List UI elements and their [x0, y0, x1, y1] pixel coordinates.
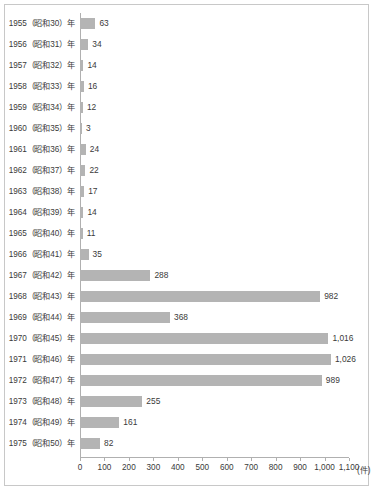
bar-row: 1958（昭和33）年16	[5, 76, 368, 97]
bar-category-label: 1975（昭和50）年	[5, 433, 75, 454]
bar-category-label: 1956（昭和31）年	[5, 34, 75, 55]
bar-category-label: 1962（昭和37）年	[5, 160, 75, 181]
bar-row: 1967（昭和42）年288	[5, 265, 368, 286]
bar-track: 255	[80, 391, 368, 412]
bar-category-label: 1974（昭和49）年	[5, 412, 75, 433]
bar-track: 22	[80, 160, 368, 181]
bar-track: 3	[80, 118, 368, 139]
x-axis-tick-label: 200	[122, 463, 136, 472]
bar-category-label: 1972（昭和47）年	[5, 370, 75, 391]
x-axis-tick-mark	[178, 458, 179, 461]
x-axis-tick-mark	[349, 458, 350, 461]
bar-category-label: 1966（昭和41）年	[5, 244, 75, 265]
x-axis-tick-label: 900	[293, 463, 307, 472]
x-axis-tick-mark	[325, 458, 326, 461]
bar-track: 24	[80, 139, 368, 160]
bar-value-label: 982	[320, 286, 338, 307]
bar-track: 1,026	[80, 349, 368, 370]
bar-category-label: 1955（昭和30）年	[5, 13, 75, 34]
x-axis-tick-mark	[251, 458, 252, 461]
bar-row: 1956（昭和31）年34	[5, 34, 368, 55]
bar-track: 35	[80, 244, 368, 265]
bar-row: 1969（昭和44）年368	[5, 307, 368, 328]
bar-rect	[80, 333, 328, 344]
x-axis-tick-mark	[153, 458, 154, 461]
bar-value-label: 24	[86, 139, 99, 160]
bar-track: 34	[80, 34, 368, 55]
bar-value-label: 1,026	[331, 349, 356, 370]
bar-category-label: 1971（昭和46）年	[5, 349, 75, 370]
bar-value-label: 11	[83, 223, 96, 244]
bar-rect	[80, 417, 119, 428]
x-axis-line	[80, 457, 349, 458]
bar-rect	[80, 375, 322, 386]
bar-rect	[80, 396, 142, 407]
x-axis-tick-label: 100	[98, 463, 112, 472]
bar-track: 989	[80, 370, 368, 391]
bar-row: 1971（昭和46）年1,026	[5, 349, 368, 370]
bar-value-label: 368	[170, 307, 188, 328]
bar-category-label: 1968（昭和43）年	[5, 286, 75, 307]
x-axis-tick-mark	[202, 458, 203, 461]
bar-category-label: 1963（昭和38）年	[5, 181, 75, 202]
bar-value-label: 288	[150, 265, 168, 286]
bar-value-label: 161	[119, 412, 137, 433]
bar-row: 1955（昭和30）年63	[5, 13, 368, 34]
bar-rect	[80, 438, 100, 449]
bar-category-label: 1964（昭和39）年	[5, 202, 75, 223]
bar-category-label: 1959（昭和34）年	[5, 97, 75, 118]
x-axis-tick-mark	[300, 458, 301, 461]
x-axis-tick-mark	[80, 458, 81, 461]
x-axis-tick-label: 500	[195, 463, 209, 472]
bar-row: 1973（昭和48）年255	[5, 391, 368, 412]
bar-rect	[80, 312, 170, 323]
bar-row: 1961（昭和36）年24	[5, 139, 368, 160]
bar-track: 17	[80, 181, 368, 202]
bar-track: 1,016	[80, 328, 368, 349]
bar-track: 11	[80, 223, 368, 244]
bar-category-label: 1967（昭和42）年	[5, 265, 75, 286]
bar-rect	[80, 39, 88, 50]
bar-value-label: 14	[83, 55, 96, 76]
bar-rect	[80, 354, 331, 365]
bar-row: 1960（昭和35）年3	[5, 118, 368, 139]
bar-track: 14	[80, 202, 368, 223]
bar-track: 288	[80, 265, 368, 286]
bar-row: 1966（昭和41）年35	[5, 244, 368, 265]
bar-row: 1965（昭和40）年11	[5, 223, 368, 244]
bar-category-label: 1973（昭和48）年	[5, 391, 75, 412]
bar-value-label: 12	[83, 97, 96, 118]
bar-track: 82	[80, 433, 368, 454]
bar-category-label: 1970（昭和45）年	[5, 328, 75, 349]
bar-value-label: 22	[85, 160, 98, 181]
bar-track: 14	[80, 55, 368, 76]
bar-value-label: 35	[89, 244, 102, 265]
bar-category-label: 1960（昭和35）年	[5, 118, 75, 139]
bar-row: 1963（昭和38）年17	[5, 181, 368, 202]
bar-value-label: 82	[100, 433, 113, 454]
bar-value-label: 17	[84, 181, 97, 202]
x-axis-tick-label: 1,000	[314, 463, 335, 472]
bar-row: 1968（昭和43）年982	[5, 286, 368, 307]
bar-value-label: 3	[82, 118, 91, 139]
bar-row: 1959（昭和34）年12	[5, 97, 368, 118]
x-axis-unit-label: (件)	[357, 463, 370, 475]
x-axis-tick-label: 700	[244, 463, 258, 472]
bar-rect	[80, 18, 95, 29]
bar-track: 161	[80, 412, 368, 433]
bar-category-label: 1969（昭和44）年	[5, 307, 75, 328]
bar-row: 1964（昭和39）年14	[5, 202, 368, 223]
x-axis-tick-label: 0	[78, 463, 83, 472]
bar-chart-plot-area: 1955（昭和30）年631956（昭和31）年341957（昭和32）年141…	[5, 5, 368, 485]
bar-value-label: 1,016	[328, 328, 353, 349]
bar-value-label: 16	[84, 76, 97, 97]
bar-row: 1974（昭和49）年161	[5, 412, 368, 433]
bar-value-label: 63	[95, 13, 108, 34]
x-axis-tick-mark	[227, 458, 228, 461]
bar-track: 63	[80, 13, 368, 34]
bar-rect	[80, 270, 150, 281]
bar-track: 16	[80, 76, 368, 97]
x-axis-tick-label: 600	[220, 463, 234, 472]
bar-category-label: 1965（昭和40）年	[5, 223, 75, 244]
bar-track: 982	[80, 286, 368, 307]
